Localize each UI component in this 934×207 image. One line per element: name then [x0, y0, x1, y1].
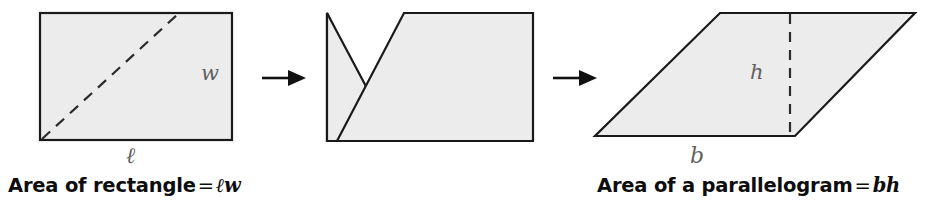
label-width-w: w: [201, 63, 219, 84]
caption-parallelogram-equals: =: [853, 174, 873, 197]
caption-area-of-parallelogram: Area of a parallelogram=bh: [597, 176, 900, 196]
cut-rectangle-figure: [327, 13, 533, 141]
arrow-2-icon: [553, 70, 597, 86]
caption-rectangle-text: Area of rectangle: [8, 174, 196, 197]
caption-parallelogram-formula: bh: [873, 174, 900, 197]
label-length-ell: ℓ: [126, 145, 135, 167]
arrow-1-icon: [262, 70, 306, 86]
caption-rectangle-formula: ℓw: [216, 174, 241, 197]
label-base-b: b: [690, 145, 704, 167]
cut-piece-trapezoid: [337, 13, 533, 141]
geometry-diagram: w ℓ h b Area of rectangle=ℓw Area of a p…: [0, 0, 934, 207]
caption-rectangle-equals: =: [196, 174, 216, 197]
caption-area-of-rectangle: Area of rectangle=ℓw: [8, 176, 241, 196]
caption-parallelogram-text: Area of a parallelogram: [597, 174, 853, 197]
label-height-h: h: [750, 62, 764, 83]
